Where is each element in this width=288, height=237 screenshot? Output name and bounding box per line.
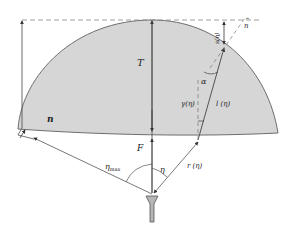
label-eta-max: ηmax xyxy=(105,162,121,172)
label-n-hat: n xyxy=(244,22,249,30)
eta-max-ray xyxy=(34,138,152,194)
label-alpha: α xyxy=(201,77,207,86)
eta-max-angle-arc xyxy=(126,164,152,182)
lens-body xyxy=(18,20,278,135)
label-l: l (η) xyxy=(216,100,230,108)
lens-antenna-diagram: T F n n ^ s(η) α γ(η) l (η) r (η) η ηmax xyxy=(0,0,288,237)
feed-horn xyxy=(146,196,158,222)
label-gamma: γ(η) xyxy=(181,100,195,108)
label-r: r (η) xyxy=(187,162,202,170)
label-F: F xyxy=(136,143,144,153)
label-eta: η xyxy=(160,165,165,174)
label-n: n xyxy=(47,114,54,124)
label-n-hat-accent: ^ xyxy=(245,16,250,23)
label-s-eta: s(η) xyxy=(213,32,221,44)
